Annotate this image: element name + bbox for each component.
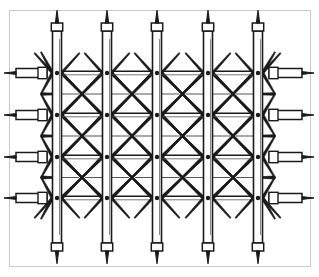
node-joint-dot: [55, 196, 59, 200]
node-joint-dot: [206, 71, 210, 75]
post-end-cap: [252, 23, 263, 31]
post-end-cap: [151, 243, 162, 251]
outer-zigzag: [263, 93, 276, 95]
post-end-cap: [101, 23, 112, 31]
side-stub-tip: [302, 156, 314, 159]
side-stub-tip: [4, 114, 16, 117]
vertical-post: [254, 31, 263, 243]
vertical-post: [53, 31, 62, 243]
node-joint-dot: [105, 113, 109, 117]
node-joint-dot: [155, 196, 159, 200]
node-joint-dot: [55, 113, 59, 117]
side-stub-tip: [4, 72, 16, 75]
post-end-cap: [51, 23, 62, 31]
node-joint-dot: [55, 155, 59, 159]
post-end-cap: [202, 23, 213, 31]
node-joint-dot: [206, 196, 210, 200]
side-stub-tip: [302, 114, 314, 117]
node-joint-dot: [206, 113, 210, 117]
side-stub-tip: [302, 197, 314, 200]
side-stub-cap: [269, 192, 278, 203]
post-end-cap: [151, 23, 162, 31]
side-stub-tip: [4, 156, 16, 159]
outer-zigzag: [41, 93, 53, 95]
post-end-cap: [51, 243, 62, 251]
side-stub-cap: [38, 109, 47, 120]
post-end-cap: [202, 243, 213, 251]
node-joint-dot: [155, 113, 159, 117]
side-stub-tip: [4, 197, 16, 200]
side-stub-cap: [269, 109, 278, 120]
truss-lattice-drawing: [0, 0, 319, 277]
post-end-cap: [252, 243, 263, 251]
vertical-post: [153, 31, 162, 243]
side-stub-cap: [269, 151, 278, 162]
outer-zigzag: [41, 135, 53, 137]
node-joint-dot: [105, 71, 109, 75]
outer-zigzag: [263, 135, 276, 137]
node-joint-dot: [256, 155, 260, 159]
post-end-cap: [101, 243, 112, 251]
vertical-post: [204, 31, 213, 243]
node-joint-dot: [206, 155, 210, 159]
side-stub-cap: [38, 192, 47, 203]
node-joint-dot: [55, 71, 59, 75]
figure-frame: [0, 0, 319, 277]
side-stub-cap: [38, 151, 47, 162]
node-joint-dot: [155, 71, 159, 75]
node-joint-dot: [155, 155, 159, 159]
node-joint-dot: [105, 196, 109, 200]
side-stub-cap: [38, 67, 47, 78]
side-stub-tip: [302, 72, 314, 75]
side-stub-cap: [269, 67, 278, 78]
node-joint-dot: [256, 71, 260, 75]
vertical-post: [103, 31, 112, 243]
node-joint-dot: [256, 196, 260, 200]
node-joint-dot: [256, 113, 260, 117]
node-joint-dot: [105, 155, 109, 159]
